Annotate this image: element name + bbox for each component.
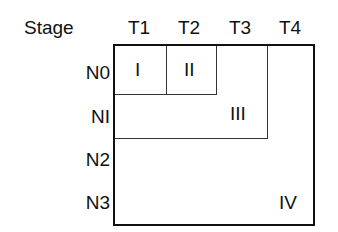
row-label-n3: N3 [86,193,110,212]
row-label-n2: N2 [86,150,110,169]
region-i-boundary [115,46,167,95]
row-label-n0: N0 [86,63,110,82]
column-label-t4: T4 [270,18,310,37]
column-label-t2: T2 [169,18,209,37]
region-label-i: I [135,60,140,79]
row-label-n1: NI [91,107,110,126]
region-label-iii: III [230,104,246,123]
column-label-t1: T1 [119,18,159,37]
stage-title: Stage [24,18,74,37]
stage-grid: I II III IV [113,44,315,226]
region-label-iv: IV [279,193,297,212]
region-label-ii: II [184,60,195,79]
column-label-t3: T3 [220,18,260,37]
